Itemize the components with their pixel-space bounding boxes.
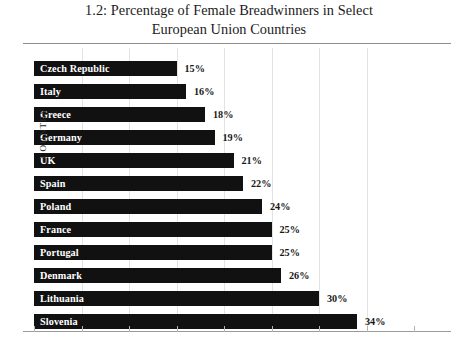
x-axis-tick — [224, 326, 225, 332]
bar-country-label: Czech Republic — [40, 61, 110, 76]
bar-country-label: Slovenia — [40, 314, 78, 329]
bar — [34, 153, 234, 168]
y-axis-label: COUNTRY — [38, 88, 48, 178]
x-axis-tick — [414, 326, 415, 332]
bar-country-label: France — [40, 222, 71, 237]
bar-value-label: 19% — [223, 130, 243, 145]
chart-title: 1.2: Percentage of Female Breadwinners i… — [0, 1, 458, 39]
bar-value-label: 15% — [185, 61, 205, 76]
bar-value-label: 18% — [213, 107, 233, 122]
bar-country-label: Portugal — [40, 245, 79, 260]
bar-value-label: 16% — [194, 84, 214, 99]
gridline-30 — [319, 48, 320, 331]
bar-value-label: 24% — [270, 199, 290, 214]
bar-country-label: Poland — [40, 199, 71, 214]
x-axis-tick — [177, 326, 178, 332]
bar-value-label: 21% — [242, 153, 262, 168]
plot-area: Czech Republic 15% Italy 16% Greece 18% … — [34, 48, 407, 331]
chart-figure: 1.2: Percentage of Female Breadwinners i… — [0, 0, 458, 342]
x-axis-tick — [129, 326, 130, 332]
bar-value-label: 30% — [327, 291, 347, 306]
x-axis-tick — [34, 326, 35, 332]
bar-country-label: Spain — [40, 176, 65, 191]
chart-title-line-1: 1.2: Percentage of Female Breadwinners i… — [0, 1, 458, 20]
x-axis-tick — [272, 326, 273, 332]
bar-value-label: 26% — [289, 268, 309, 283]
bar-country-label: Denmark — [40, 268, 82, 283]
gridline-35 — [367, 48, 368, 331]
bar-value-label: 22% — [251, 176, 271, 191]
bar-value-label: 25% — [280, 245, 300, 260]
bar-country-label: Lithuania — [40, 291, 84, 306]
bar-value-label: 25% — [280, 222, 300, 237]
x-axis-tick — [319, 326, 320, 332]
chart-title-line-2: European Union Countries — [0, 20, 458, 39]
x-axis-tick — [367, 326, 368, 332]
gridline-25 — [272, 48, 273, 331]
x-axis-tick — [82, 326, 83, 332]
bar-value-label: 34% — [365, 314, 385, 329]
title-divider-rule — [23, 43, 451, 44]
x-axis-line — [23, 331, 451, 332]
